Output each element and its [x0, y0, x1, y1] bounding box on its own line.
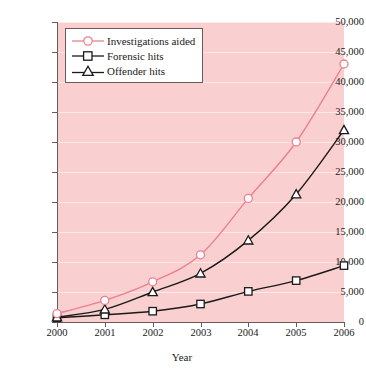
square-marker-icon	[71, 49, 105, 63]
data-point-marker	[197, 251, 205, 259]
data-point-marker	[293, 277, 300, 284]
data-point-marker	[53, 310, 61, 318]
legend: Investigations aided Forensic hits Offen…	[65, 28, 203, 83]
triangle-marker-icon	[71, 64, 105, 78]
x-axis-title: Year	[0, 351, 364, 363]
data-point-marker	[149, 278, 157, 286]
data-point-marker	[149, 308, 156, 315]
series-line	[57, 130, 344, 317]
data-point-marker	[245, 288, 252, 295]
legend-item-investigations-aided: Investigations aided	[71, 33, 195, 48]
legend-label: Forensic hits	[105, 50, 164, 62]
data-point-marker	[292, 138, 300, 146]
data-point-marker	[101, 296, 109, 304]
data-point-marker	[197, 300, 204, 307]
data-point-marker	[340, 60, 348, 68]
legend-item-forensic-hits: Forensic hits	[71, 48, 195, 63]
data-point-marker	[339, 125, 348, 133]
circle-marker-icon	[71, 34, 105, 48]
data-point-marker	[340, 262, 347, 269]
data-point-marker	[196, 269, 205, 277]
legend-item-offender-hits: Offender hits	[71, 63, 195, 78]
legend-label: Offender hits	[105, 65, 165, 77]
legend-label: Investigations aided	[105, 35, 195, 47]
data-point-marker	[244, 194, 252, 202]
